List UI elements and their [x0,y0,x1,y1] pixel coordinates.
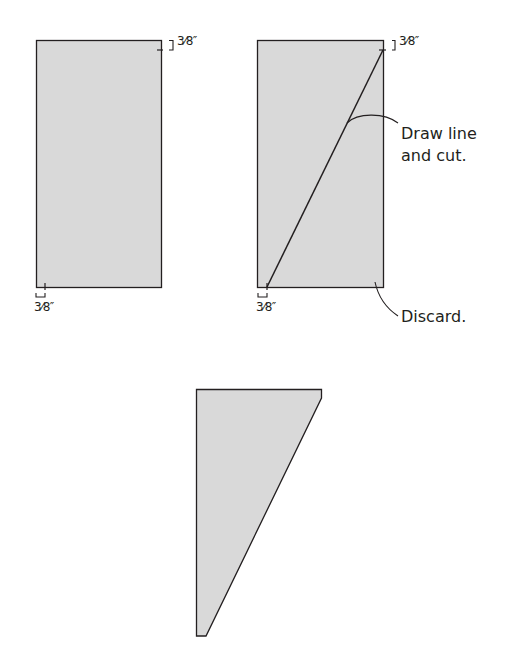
step1-bottom-offset-label: 3⁄8″ [34,300,54,314]
step1-bottom-bracket [36,293,45,297]
step2-top-bracket [392,41,395,51]
discard-callout-text: Discard. [401,306,466,328]
step2-bottom-bracket [258,293,267,297]
step3-tapered-piece [197,390,322,637]
step2-bottom-offset-label: 3⁄8″ [256,300,276,314]
step2-top-offset-label: 3⁄8″ [399,34,419,48]
step1-top-bracket [169,41,173,51]
step1-top-offset-label: 3⁄8″ [177,34,197,48]
cut-callout-text: Draw line and cut. [401,123,477,167]
step2-rectangle [258,41,384,288]
cut-callout-line1: Draw line [401,123,477,145]
cut-callout-line2: and cut. [401,145,477,167]
step1-rectangle [37,41,162,288]
